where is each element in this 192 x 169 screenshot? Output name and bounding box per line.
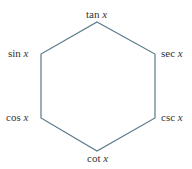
label-sec-fn: sec — [161, 47, 175, 59]
label-cot-fn: cot — [87, 152, 100, 164]
label-sin: sin x — [8, 47, 28, 59]
label-tan-var: x — [102, 8, 107, 20]
label-sin-var: x — [24, 47, 29, 59]
label-cot: cot x — [87, 152, 108, 164]
label-tan-fn: tan — [86, 8, 99, 20]
label-sin-fn: sin — [8, 47, 21, 59]
label-sec-var: x — [178, 47, 183, 59]
hexagon-diagram — [0, 0, 192, 169]
label-cot-var: x — [103, 152, 108, 164]
label-cos-var: x — [23, 111, 28, 123]
label-sec: sec x — [161, 47, 183, 59]
label-cos-fn: cos — [6, 111, 21, 123]
label-csc-fn: csc — [161, 111, 175, 123]
hexagon-outline — [41, 22, 155, 151]
label-cos: cos x — [6, 111, 28, 123]
label-tan: tan x — [86, 8, 107, 20]
label-csc: csc x — [161, 111, 183, 123]
label-csc-var: x — [178, 111, 183, 123]
